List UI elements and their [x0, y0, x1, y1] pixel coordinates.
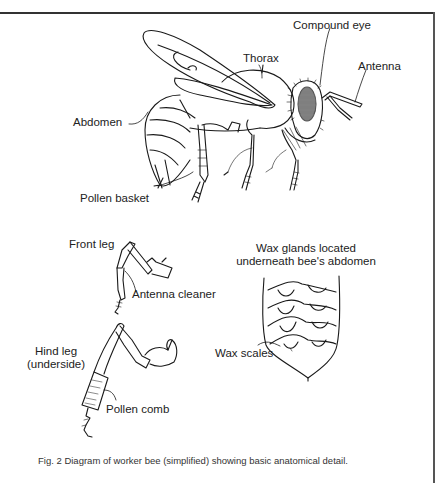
- label-wax-glands: Wax glands located underneath bee's abdo…: [232, 242, 380, 268]
- figure-caption: Fig. 2 Diagram of worker bee (simplified…: [38, 455, 378, 467]
- label-thorax: Thorax: [243, 52, 279, 65]
- label-antenna: Antenna: [358, 60, 401, 73]
- label-wax-scales: Wax scales: [215, 347, 273, 360]
- hind-leg-drawing: [82, 324, 177, 437]
- label-pollen-basket: Pollen basket: [80, 192, 149, 205]
- label-hind-leg-line1: Hind leg: [24, 345, 88, 358]
- label-wax-glands-line2: underneath bee's abdomen: [232, 255, 380, 268]
- label-abdomen: Abdomen: [73, 116, 122, 129]
- label-hind-leg: Hind leg (underside): [24, 345, 88, 371]
- label-antenna-cleaner: Antenna cleaner: [132, 288, 216, 301]
- label-hind-leg-line2: (underside): [24, 358, 88, 371]
- abdomen-underside-drawing: [258, 276, 340, 381]
- label-front-leg: Front leg: [69, 238, 114, 251]
- label-wax-glands-line1: Wax glands located: [232, 242, 380, 255]
- label-compound-eye: Compound eye: [293, 19, 371, 32]
- front-leg-drawing: [115, 242, 172, 314]
- label-pollen-comb: Pollen comb: [106, 403, 169, 416]
